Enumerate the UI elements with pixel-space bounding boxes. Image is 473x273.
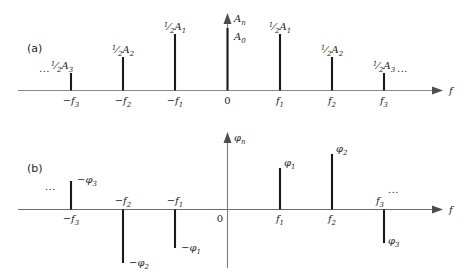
svg-text:1⁄2A1: 1⁄2A1 bbox=[164, 21, 186, 35]
panel-a-letter: (a) bbox=[27, 42, 42, 55]
panel-b-tick-neg-f2: −f2 bbox=[115, 195, 132, 209]
panel-a-tick-neg-f3: −f3 bbox=[63, 95, 80, 109]
svg-text:1⁄2A1: 1⁄2A1 bbox=[269, 21, 291, 35]
panel-a-amplitude-axis-arrowhead bbox=[224, 13, 232, 24]
panel-a-tick-f2: f2 bbox=[327, 95, 337, 109]
panel-b: (b) f φn −φ3 −φ2 −φ1 φ1 φ2 φ3 ... bbox=[18, 132, 455, 271]
panel-b-stem-label-neg-f2: −φ2 bbox=[129, 257, 149, 271]
svg-text:1⁄2A3: 1⁄2A3 bbox=[373, 60, 396, 74]
panel-a-tick-neg-f2: −f2 bbox=[115, 95, 132, 109]
panel-a-stem-label-f3: 1⁄2A3 bbox=[373, 60, 396, 74]
svg-text:1⁄2A2: 1⁄2A2 bbox=[321, 44, 344, 58]
panel-b-tick-zero: 0 bbox=[217, 213, 223, 224]
panel-a-stem-label-neg-f2: 1⁄2A2 bbox=[112, 44, 135, 58]
panel-b-stem-label-neg-f3: −φ3 bbox=[77, 174, 97, 188]
panel-a-stem-label-zero: A0 bbox=[233, 31, 246, 45]
panel-a-tick-zero: 0 bbox=[224, 95, 230, 106]
panel-b-stem-label-f1: φ1 bbox=[284, 157, 295, 171]
spectrum-figure: (a) f An 1⁄2A3 bbox=[0, 0, 473, 273]
panel-b-frequency-axis-label: f bbox=[448, 204, 455, 215]
panel-b-stem-label-neg-f1: −φ1 bbox=[181, 242, 201, 256]
panel-b-letter: (b) bbox=[27, 162, 43, 175]
panel-b-tick-f3: f3 bbox=[375, 195, 385, 209]
panel-a-stem-label-neg-f1: 1⁄2A1 bbox=[164, 21, 186, 35]
panel-b-phase-axis-arrowhead bbox=[224, 132, 232, 143]
panel-a-stem-label-f2: 1⁄2A2 bbox=[321, 44, 344, 58]
panel-a-left-ellipsis: ... bbox=[39, 63, 50, 74]
panel-b-right-ellipsis: ... bbox=[388, 184, 399, 195]
figure-container: (a) f An 1⁄2A3 bbox=[0, 0, 473, 273]
svg-text:A0: A0 bbox=[233, 31, 246, 45]
panel-a-stem-label-f1: 1⁄2A1 bbox=[269, 21, 291, 35]
panel-b-left-ellipsis: ... bbox=[45, 181, 56, 192]
panel-a-frequency-axis-arrowhead bbox=[432, 87, 443, 95]
panel-a-frequency-axis-label: f bbox=[448, 85, 455, 96]
panel-b-stem-label-f2: φ2 bbox=[336, 143, 348, 157]
panel-a-tick-f1: f1 bbox=[275, 95, 284, 109]
panel-a-amplitude-axis-label: An bbox=[233, 13, 246, 27]
panel-a: (a) f An 1⁄2A3 bbox=[18, 13, 455, 109]
panel-a-tick-f3: f3 bbox=[379, 95, 389, 109]
panel-a-right-ellipsis: ... bbox=[397, 63, 408, 74]
panel-a-stem-label-neg-f3: 1⁄2A3 bbox=[51, 60, 74, 74]
panel-b-tick-f2: f2 bbox=[327, 213, 337, 227]
svg-text:1⁄2A3: 1⁄2A3 bbox=[51, 60, 74, 74]
panel-b-tick-neg-f1: −f1 bbox=[167, 195, 184, 209]
panel-b-stem-label-f3: φ3 bbox=[388, 235, 400, 249]
panel-b-phase-axis-label: φn bbox=[234, 132, 246, 146]
panel-b-frequency-axis-arrowhead bbox=[432, 206, 443, 214]
panel-b-tick-neg-f3: −f3 bbox=[63, 213, 80, 227]
panel-b-tick-f1: f1 bbox=[275, 213, 284, 227]
panel-a-tick-neg-f1: −f1 bbox=[167, 95, 184, 109]
svg-text:1⁄2A2: 1⁄2A2 bbox=[112, 44, 135, 58]
